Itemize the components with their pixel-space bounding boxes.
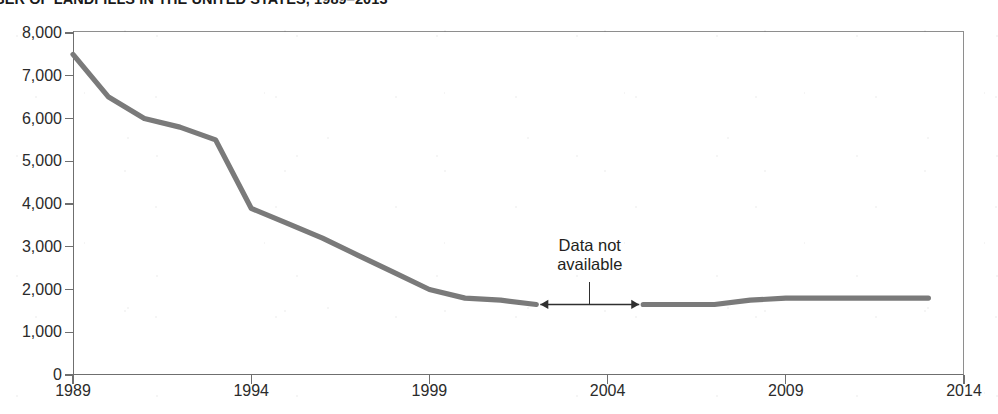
y-tick-label: 0 bbox=[4, 367, 62, 383]
plot-area bbox=[73, 31, 964, 375]
y-tick-mark bbox=[65, 289, 73, 290]
y-tick-mark bbox=[65, 161, 73, 162]
y-tick-mark bbox=[65, 75, 73, 76]
x-tick-label: 1999 bbox=[394, 382, 464, 400]
chart-page: MBER OF LANDFILLS IN THE UNITED STATES, … bbox=[0, 0, 998, 414]
y-tick-label: 8,000 bbox=[4, 25, 62, 41]
chart-title: MBER OF LANDFILLS IN THE UNITED STATES, … bbox=[0, 0, 992, 9]
y-tick-label: 6,000 bbox=[4, 111, 62, 127]
y-tick-mark bbox=[65, 332, 73, 333]
y-tick-label: 4,000 bbox=[4, 196, 62, 212]
y-tick-mark bbox=[65, 118, 73, 119]
annotation-line-2: available bbox=[510, 255, 670, 274]
x-tick-label: 2009 bbox=[751, 382, 821, 400]
x-tick-label: 1989 bbox=[38, 382, 108, 400]
x-tick-label: 2004 bbox=[573, 382, 643, 400]
y-tick-label: 1,000 bbox=[4, 324, 62, 340]
x-tick-label: 2014 bbox=[929, 382, 998, 400]
x-tick-label: 1994 bbox=[216, 382, 286, 400]
y-tick-label: 7,000 bbox=[4, 68, 62, 84]
y-tick-mark bbox=[65, 32, 73, 33]
annotation-data-not-available: Data not available bbox=[510, 236, 670, 274]
y-tick-mark bbox=[65, 203, 73, 204]
y-tick-label: 5,000 bbox=[4, 153, 62, 169]
y-tick-mark bbox=[65, 246, 73, 247]
y-tick-label: 3,000 bbox=[4, 239, 62, 255]
y-tick-label: 2,000 bbox=[4, 282, 62, 298]
annotation-line-1: Data not bbox=[510, 236, 670, 255]
annotation-leader-line bbox=[589, 282, 590, 304]
